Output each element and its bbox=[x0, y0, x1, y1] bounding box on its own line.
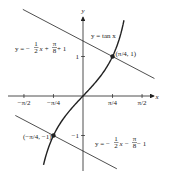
x-axis-label: x bbox=[154, 93, 159, 101]
point-label: (−π/4, −1) bbox=[23, 133, 52, 141]
lower-line-label: y = − 1 2 x − π 8 − 1 bbox=[95, 135, 147, 150]
lower-label-prefix: y = − bbox=[95, 140, 110, 148]
upper-line-label: y = − 1 2 x + π 8 + 1 bbox=[15, 40, 67, 55]
x-tick-label: −π/2 bbox=[17, 99, 30, 107]
x-tick-label: −π/4 bbox=[47, 99, 60, 107]
tangent-point bbox=[51, 133, 55, 137]
point-label: (π/4, 1) bbox=[116, 50, 137, 58]
tangent-diagram: −π/2−π/4π/4π/21−1 (π/4, 1)(−π/4, −1) y x… bbox=[0, 0, 171, 180]
x-tick-label: π/4 bbox=[108, 99, 117, 107]
upper-label-prefix: y = − bbox=[15, 45, 30, 53]
lower-label-suffix: − 1 bbox=[137, 140, 147, 148]
lower-label-frac1-den: 2 bbox=[114, 142, 118, 150]
upper-label-frac1-den: 2 bbox=[34, 47, 38, 55]
tangent-line-upper bbox=[23, 9, 155, 78]
x-tick-label: π/2 bbox=[138, 99, 147, 107]
y-axis-label: y bbox=[80, 7, 85, 15]
upper-label-suffix: + 1 bbox=[57, 45, 67, 53]
y-tick-label: −1 bbox=[72, 132, 80, 140]
y-tick-label: 1 bbox=[76, 53, 80, 61]
tangent-point bbox=[110, 54, 114, 58]
lower-label-mid: x − bbox=[119, 140, 130, 148]
function-label: y = tan x bbox=[91, 32, 116, 40]
upper-label-mid: x + bbox=[39, 45, 50, 53]
